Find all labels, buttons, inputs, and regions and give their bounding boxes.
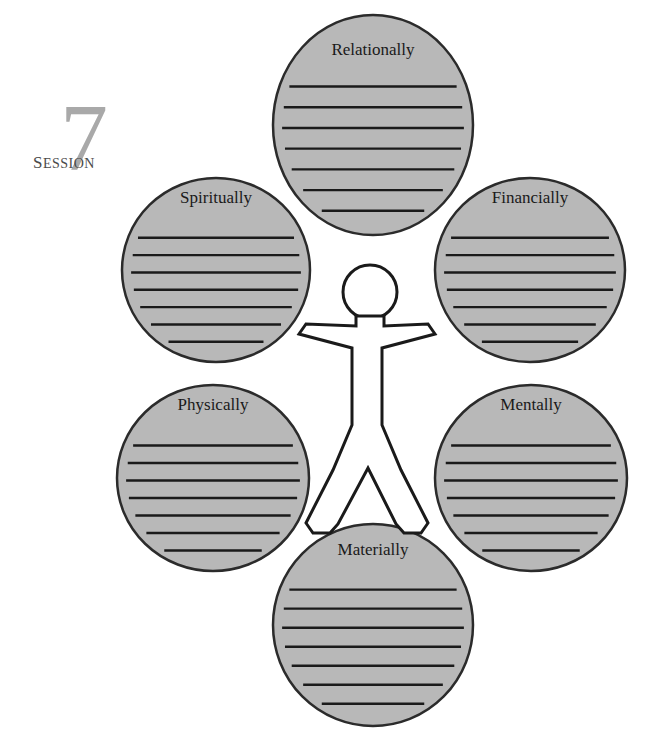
worksheet-page: 7 Session RelationallySpirituallyFinanci… <box>0 0 654 749</box>
figure-body <box>299 316 435 533</box>
bubble-label-spiritually: Spiritually <box>180 188 252 207</box>
human-outline-figure <box>299 265 435 533</box>
life-areas-diagram: RelationallySpirituallyFinanciallyPhysic… <box>0 0 654 749</box>
bubble-label-physically: Physically <box>178 395 249 414</box>
bubble-label-relationally: Relationally <box>331 40 415 59</box>
bubble-label-financially: Financially <box>492 188 569 207</box>
bubble-label-materially: Materially <box>338 540 409 559</box>
bubble-label-mentally: Mentally <box>500 395 562 414</box>
figure-head <box>343 265 397 319</box>
